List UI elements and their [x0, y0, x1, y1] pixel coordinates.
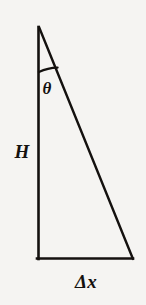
angle-arc — [39, 68, 58, 72]
triangle-figure: θ H Δx — [0, 0, 146, 305]
hypotenuse-line — [39, 27, 133, 259]
base-label: Δx — [75, 272, 97, 291]
angle-label-theta: θ — [43, 80, 52, 97]
height-label: H — [15, 142, 30, 161]
